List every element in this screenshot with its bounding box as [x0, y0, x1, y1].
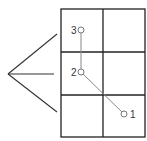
node-2-label: 2	[71, 67, 77, 78]
fan-line-bottom	[8, 74, 57, 112]
node-path	[81, 33, 122, 112]
node-2-circle	[78, 69, 84, 75]
fan-line-top	[8, 34, 57, 74]
node-1-label: 1	[130, 109, 136, 120]
grid-diagram: 3 2 1	[0, 0, 147, 141]
fan-lines	[8, 34, 57, 112]
node-3-circle	[78, 27, 84, 33]
node-1-circle	[121, 111, 127, 117]
node-3-label: 3	[71, 25, 77, 36]
